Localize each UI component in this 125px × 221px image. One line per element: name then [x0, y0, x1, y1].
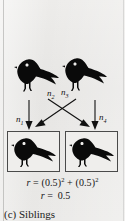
formula-line-result: r = 0.5 — [0, 189, 125, 202]
figure-caption-text: Siblings — [19, 208, 55, 220]
offspring-bird-right — [69, 135, 115, 170]
gene-flow-label-n1: n1 — [16, 115, 24, 126]
formula-term-2-exponent: 2 — [95, 176, 98, 183]
arrow-n2 — [48, 99, 90, 127]
parent-bird-right — [62, 54, 108, 95]
offspring-box-left — [7, 131, 60, 172]
offspring-bird-left — [11, 135, 57, 170]
relatedness-formula: r = (0.5)2 + (0.5)2 r = 0.5 — [0, 176, 125, 202]
crow-silhouette-icon — [69, 135, 115, 170]
offspring-box-right — [65, 131, 118, 172]
diagram-area: n1 n2 n3 n4 — [0, 0, 125, 205]
gene-flow-label-n3: n3 — [61, 88, 69, 99]
formula-term-1: (0.5) — [41, 177, 61, 188]
formula-line-expanded: r = (0.5)2 + (0.5)2 — [0, 176, 125, 189]
formula-equals: = — [33, 177, 39, 188]
formula-term-1-exponent: 2 — [61, 176, 64, 183]
formula-plus: + — [67, 177, 73, 188]
arrow-n3 — [35, 99, 76, 127]
arrow-n1 — [25, 100, 32, 130]
formula-term-2: (0.5) — [75, 177, 95, 188]
gene-flow-arrow-layer — [0, 0, 125, 205]
crow-silhouette-icon — [11, 135, 57, 170]
figure-siblings-relatedness: n1 n2 n3 n4 — [0, 0, 125, 221]
gene-flow-label-n2: n2 — [47, 89, 55, 100]
formula-result-equals: = — [47, 190, 53, 201]
figure-caption: (c) Siblings — [4, 208, 55, 220]
arrow-n4 — [91, 100, 98, 130]
gene-flow-label-n4: n4 — [99, 113, 107, 124]
crow-silhouette-icon — [62, 54, 108, 95]
figure-caption-label: (c) — [4, 208, 16, 220]
formula-result-variable-r: r — [41, 190, 45, 201]
formula-variable-r: r — [27, 177, 31, 188]
formula-result-value: 0.5 — [58, 190, 71, 201]
